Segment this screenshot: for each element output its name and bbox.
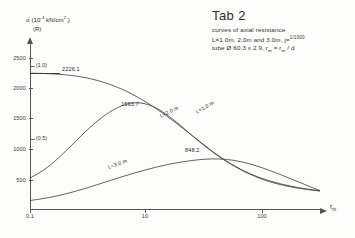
x-axis-arrow: [320, 208, 327, 214]
page-title: Tab 2: [212, 8, 352, 23]
y-tick-mark-500: [29, 180, 33, 181]
subtitle-line-2: L=1.0m, 2.0m and 3.0m, j=1/1000: [212, 34, 352, 44]
y-tick-mark-2500: [29, 58, 33, 59]
slope-fraction: 1/1000: [290, 35, 305, 40]
y-axis-arrow: [27, 37, 33, 44]
subtitle-line-1: curves of axial resistance: [212, 26, 352, 34]
y-tick-label-2500: 2500: [4, 55, 26, 61]
curve-l1-lead: [30, 73, 60, 74]
y-axis-label: σ́ (10-4 kN/cm2 ): [26, 15, 70, 23]
y-tick-mark-1500: [29, 118, 33, 119]
x-tick-label-0-1: 0.1: [18, 213, 42, 219]
y-tick-label-1000: 1000: [4, 146, 26, 152]
y-tick-mark-2000: [29, 88, 33, 89]
curve-l3: [30, 159, 320, 201]
y-axis-label-text: σ́ (10-4 kN/cm2 ): [26, 16, 70, 23]
subtitle-line-2-text: L=1.0m, 2.0m and 3.0m, j=: [212, 36, 290, 43]
x-axis-label-text: rm: [330, 203, 336, 210]
peak-label-l2: 1593.7: [121, 101, 139, 107]
y-par-mark-0-5: [31, 139, 35, 140]
peak-label-l3: 848.2: [185, 147, 200, 153]
x-tick-label-10: 10: [133, 213, 157, 219]
y-tick-label-500: 500: [4, 177, 26, 183]
chart-page: Tab 2 curves of axial resistance L=1.0m,…: [0, 0, 355, 238]
y-par-label-0-5: (0.5): [36, 135, 47, 141]
x-axis-label: rm: [330, 203, 336, 212]
y-tick-label-2000: 2000: [4, 85, 26, 91]
y-tick-label-1500: 1500: [4, 115, 26, 121]
y-tick-mark-1000: [29, 149, 33, 150]
curve-l2: [30, 103, 320, 191]
peak-label-l1: 2226.1: [62, 66, 80, 72]
y-par-label-1-0: (1.0): [36, 62, 47, 68]
x-tick-label-100: 100: [250, 213, 274, 219]
y-par-mark-1-0: [31, 66, 35, 67]
y-axis-label-secondary: (R): [33, 26, 41, 32]
